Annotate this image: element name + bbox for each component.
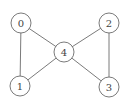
node-0: 0 [11,13,31,33]
node-label: 4 [61,47,67,58]
node-label: 0 [18,18,24,29]
node-4: 4 [54,42,74,62]
graph-diagram: 0 1 2 3 4 [0,0,130,105]
node-label: 1 [17,81,23,92]
node-3: 3 [99,77,119,97]
node-2: 2 [99,13,119,33]
node-1: 1 [10,76,30,96]
node-label: 2 [106,18,112,29]
node-label: 3 [106,82,112,93]
nodes: 0 1 2 3 4 [10,13,119,97]
